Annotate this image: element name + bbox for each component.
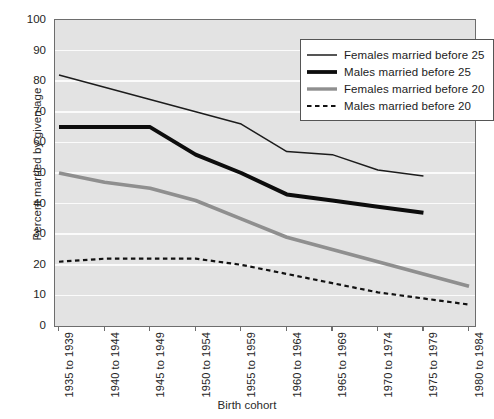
x-tick-label: 1970 to 1974 [382, 332, 394, 397]
x-tick-label: 1960 to 1964 [291, 332, 303, 397]
y-axis-tick-labels: 0102030405060708090100 [8, 19, 50, 325]
x-tick-mark [195, 326, 196, 331]
chart-container: Percent married by given age 01020304050… [0, 0, 494, 419]
x-tick-mark [468, 326, 469, 331]
legend-item: Males married before 20 [307, 97, 485, 114]
y-tick-label: 100 [27, 13, 46, 25]
series-line-2 [59, 173, 469, 286]
y-tick-label: 0 [40, 319, 46, 331]
y-tick-label: 70 [33, 105, 46, 117]
x-tick-mark [331, 326, 332, 331]
legend-line-swatch [307, 100, 337, 112]
legend-label: Females married before 25 [344, 49, 485, 61]
legend-label: Males married before 20 [344, 100, 471, 112]
y-tick-label: 80 [33, 74, 46, 86]
y-tick-label: 10 [33, 288, 46, 300]
series-line-1 [59, 127, 423, 213]
x-tick-mark [58, 326, 59, 331]
y-tick-label: 20 [33, 258, 46, 270]
x-tick-label: 1945 to 1949 [154, 332, 166, 397]
legend-line-swatch [307, 66, 337, 78]
x-tick-label: 1940 to 1944 [109, 332, 121, 397]
x-tick-label: 1935 to 1939 [63, 332, 75, 397]
y-tick-label: 60 [33, 135, 46, 147]
y-tick-label: 30 [33, 227, 46, 239]
x-tick-label: 1965 to 1969 [336, 332, 348, 397]
x-tick-mark [422, 326, 423, 331]
legend-item: Females married before 25 [307, 46, 485, 63]
legend-line-swatch [307, 49, 337, 61]
x-axis-title: Birth cohort [0, 399, 494, 411]
x-tick-mark [286, 326, 287, 331]
legend-item: Females married before 20 [307, 80, 485, 97]
x-tick-mark [240, 326, 241, 331]
legend-item: Males married before 25 [307, 63, 485, 80]
x-tick-mark [149, 326, 150, 331]
x-tick-mark [377, 326, 378, 331]
legend-label: Females married before 20 [344, 83, 485, 95]
x-tick-label: 1955 to 1959 [245, 332, 257, 397]
series-line-3 [59, 259, 469, 305]
chart-legend: Females married before 25Males married b… [300, 39, 494, 121]
x-tick-label: 1975 to 1979 [427, 332, 439, 397]
x-tick-label: 1950 to 1954 [200, 332, 212, 397]
legend-line-swatch [307, 83, 337, 95]
y-tick-label: 90 [33, 44, 46, 56]
y-tick-label: 50 [33, 166, 46, 178]
x-tick-mark [104, 326, 105, 331]
x-axis-tick-labels: 1935 to 19391940 to 19441945 to 19491950… [54, 332, 476, 392]
legend-label: Males married before 25 [344, 66, 471, 78]
x-tick-label: 1980 to 1984 [473, 332, 485, 397]
y-tick-label: 40 [33, 197, 46, 209]
